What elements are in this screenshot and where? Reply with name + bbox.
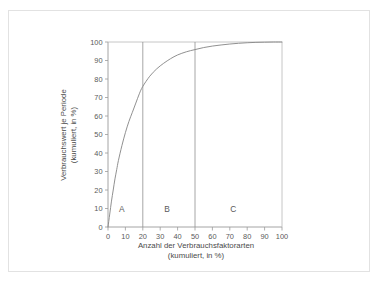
x-tick-label: 10	[121, 232, 129, 241]
y-tick-label: 10	[94, 204, 102, 213]
y-tick-labels: 0102030405060708090100	[90, 38, 102, 232]
y-tick-label: 70	[94, 93, 102, 102]
x-tick-label: 60	[208, 232, 216, 241]
x-tick-label: 0	[106, 232, 110, 241]
y-tick-label: 20	[94, 186, 102, 195]
y-axis-title-line2: (kumuliert, in %)	[69, 106, 78, 163]
y-axis-title-group: Verbrauchswert je Periode (kumuliert, in…	[59, 89, 78, 180]
zone-label-a: A	[119, 204, 125, 214]
x-tick-label: 100	[276, 232, 288, 241]
x-tick-label: 30	[156, 232, 164, 241]
x-tick-label: 20	[139, 232, 147, 241]
y-tick-label: 0	[98, 223, 102, 232]
y-tick-label: 90	[94, 56, 102, 65]
x-tick-marks	[108, 227, 282, 231]
x-tick-label: 80	[243, 232, 251, 241]
y-tick-label: 30	[94, 167, 102, 176]
y-axis-title-line1: Verbrauchswert je Periode	[59, 89, 68, 180]
zone-dividers	[143, 42, 195, 227]
x-tick-label: 40	[173, 232, 181, 241]
x-axis-title-line1: Anzahl der Verbrauchsfaktorarten	[138, 241, 254, 250]
figure-root: 0102030405060708090100 01020304050607080…	[0, 0, 380, 282]
x-tick-label: 50	[191, 232, 199, 241]
zone-labels: ABC	[119, 204, 236, 214]
x-tick-label: 90	[260, 232, 268, 241]
zone-label-c: C	[230, 204, 236, 214]
y-tick-label: 100	[90, 38, 102, 47]
y-tick-label: 40	[94, 149, 102, 158]
y-tick-label: 60	[94, 112, 102, 121]
x-axis-title-line2: (kumuliert, in %)	[168, 251, 225, 260]
y-tick-label: 80	[94, 75, 102, 84]
chart-canvas: 0102030405060708090100 01020304050607080…	[0, 0, 380, 282]
x-tick-labels: 0102030405060708090100	[106, 232, 288, 241]
y-tick-label: 50	[94, 130, 102, 139]
lorenz-curve-chart: 0102030405060708090100 01020304050607080…	[0, 0, 380, 282]
x-tick-label: 70	[226, 232, 234, 241]
zone-label-b: B	[164, 204, 170, 214]
x-axis-title-group: Anzahl der Verbrauchsfaktorarten (kumuli…	[138, 241, 254, 260]
